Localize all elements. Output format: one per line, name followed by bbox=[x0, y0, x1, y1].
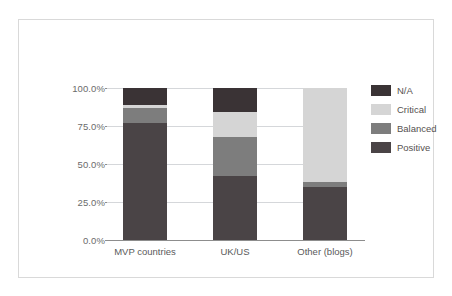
legend-item-critical[interactable]: Critical bbox=[371, 100, 451, 118]
y-tick-label-100: 100.0% bbox=[72, 83, 105, 94]
chart-legend: N/A Critical Balanced Positive bbox=[371, 81, 451, 157]
segment-critical-1 bbox=[213, 112, 257, 136]
y-tick-label-75: 75.0% bbox=[78, 121, 105, 132]
y-tick-label-50: 50.0% bbox=[78, 159, 105, 170]
legend-label-balanced: Balanced bbox=[397, 123, 437, 134]
segment-positive-2 bbox=[303, 187, 347, 240]
y-axis: 100.0% 75.0% 50.0% 25.0% 0.0% bbox=[49, 20, 105, 296]
legend-swatch-balanced-icon bbox=[371, 123, 391, 134]
legend-label-positive: Positive bbox=[397, 142, 430, 153]
legend-label-na: N/A bbox=[397, 85, 413, 96]
segment-balanced-1 bbox=[213, 137, 257, 177]
segment-na-0 bbox=[123, 88, 167, 105]
segment-positive-1 bbox=[213, 176, 257, 240]
stacked-bar-uk-us bbox=[213, 88, 257, 240]
legend-swatch-na-icon bbox=[371, 85, 391, 96]
stacked-bar-mvp-countries bbox=[123, 88, 167, 240]
segment-critical-2 bbox=[303, 88, 347, 182]
segment-na-1 bbox=[213, 88, 257, 112]
x-axis-label-other-blogs: Other (blogs) bbox=[297, 246, 352, 257]
plot-area bbox=[123, 88, 347, 240]
legend-swatch-critical-icon bbox=[371, 104, 391, 115]
stacked-bar-other-blogs bbox=[303, 88, 347, 240]
x-axis-line bbox=[105, 240, 365, 241]
legend-label-critical: Critical bbox=[397, 104, 426, 115]
legend-item-positive[interactable]: Positive bbox=[371, 138, 451, 156]
legend-item-balanced[interactable]: Balanced bbox=[371, 119, 451, 137]
x-axis-label-mvp-countries: MVP countries bbox=[114, 246, 176, 257]
segment-positive-0 bbox=[123, 123, 167, 240]
legend-swatch-positive-icon bbox=[371, 142, 391, 153]
legend-item-na[interactable]: N/A bbox=[371, 81, 451, 99]
y-tick-label-0: 0.0% bbox=[83, 235, 105, 246]
segment-balanced-0 bbox=[123, 108, 167, 123]
x-axis-label-uk-us: UK/US bbox=[220, 246, 249, 257]
chart-frame: 100.0% 75.0% 50.0% 25.0% 0.0% bbox=[18, 19, 434, 278]
y-tick-label-25: 25.0% bbox=[78, 197, 105, 208]
